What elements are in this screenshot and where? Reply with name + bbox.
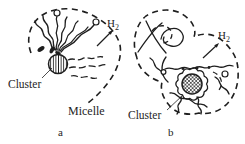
headgroup-circle [93,19,99,25]
cluster-sphere-b [182,74,202,94]
h2-label-b: H2 [218,29,230,44]
chain-base-blob [37,45,46,53]
cluster-sphere-a [49,55,68,74]
polymer-chain [197,97,201,114]
polymer-chain [170,93,207,107]
micelle-cluster-figure: H2 Cluster Micelle a [0,0,245,144]
headgroup-circle [222,71,228,77]
surfactant-chain [43,16,56,50]
headgroup-circle [161,70,166,75]
h2-label-a: H2 [107,17,119,32]
h2-arrow-b [203,45,217,58]
h2-arrow-a [97,32,111,46]
polymer-chain [165,65,233,69]
panel-letter-a: a [58,126,63,138]
panel-letter-b: b [168,126,174,138]
cluster-leader-a [42,68,52,78]
cluster-label-b: Cluster [128,109,161,121]
panel-a: H2 Cluster Micelle a [8,9,120,138]
cluster-label-a: Cluster [8,78,41,90]
surfactant-chain [61,25,94,52]
coil-inner-dashed [213,72,221,90]
surfactant-chain [35,21,55,50]
surfactant-chain [56,16,58,50]
surfactant-chain [71,76,97,79]
polymer-chain [215,77,229,94]
headgroup-circle [54,10,60,16]
panel-b: H2 Cluster b [128,10,238,138]
polymer-chain [138,23,162,52]
chain-knot-dot [208,66,211,69]
figure-canvas: H2 Cluster Micelle a [0,0,245,144]
polymer-chain [161,28,183,46]
surfactant-chain [60,27,88,51]
micelle-label: Micelle [68,104,105,118]
surfactant-chain [68,57,103,60]
surfactant-chain [69,65,108,68]
